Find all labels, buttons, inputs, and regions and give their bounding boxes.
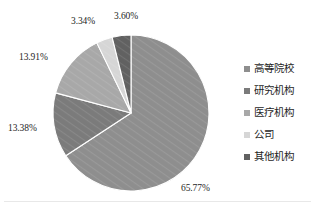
pie-plot-area: 65.77%13.38%13.91%3.34%3.60% xyxy=(0,0,240,210)
legend-swatch-icon xyxy=(244,66,250,72)
legend-item-label: 研究机构 xyxy=(254,86,294,97)
pie-slice-label: 3.34% xyxy=(71,17,95,27)
pie-slice-label: 13.38% xyxy=(8,124,37,134)
legend-item[interactable]: 公司 xyxy=(244,124,314,146)
footer-divider xyxy=(4,201,311,202)
legend-swatch-icon xyxy=(244,132,250,138)
chart-legend: 高等院校研究机构医疗机构公司其他机构 xyxy=(244,58,314,168)
legend-item-label: 高等院校 xyxy=(254,64,294,75)
legend-swatch-icon xyxy=(244,88,250,94)
legend-item-label: 公司 xyxy=(254,130,274,141)
pie-svg xyxy=(0,0,240,210)
pie-slice-label: 3.60% xyxy=(114,12,138,22)
pie-texture-overlay xyxy=(53,35,209,191)
legend-item[interactable]: 高等院校 xyxy=(244,58,314,80)
pie-slice-label: 65.77% xyxy=(181,184,210,194)
legend-item[interactable]: 研究机构 xyxy=(244,80,314,102)
pie-slice-label: 13.91% xyxy=(19,53,48,63)
legend-item[interactable]: 医疗机构 xyxy=(244,102,314,124)
legend-item-label: 医疗机构 xyxy=(254,108,294,119)
pie-chart: 65.77%13.38%13.91%3.34%3.60% 高等院校研究机构医疗机… xyxy=(0,0,315,210)
legend-swatch-icon xyxy=(244,154,250,160)
legend-item-label: 其他机构 xyxy=(254,152,294,163)
legend-swatch-icon xyxy=(244,110,250,116)
legend-item[interactable]: 其他机构 xyxy=(244,146,314,168)
